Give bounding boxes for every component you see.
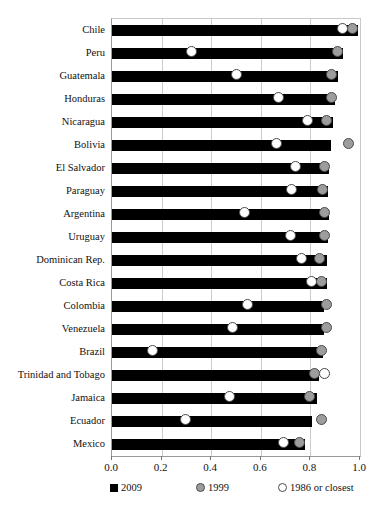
x-axis-tick-label: 0.0 xyxy=(91,461,131,473)
x-axis-tick-label: 0.2 xyxy=(141,461,181,473)
marker-1999 xyxy=(321,115,332,126)
bar-2009 xyxy=(112,393,317,404)
marker-1999 xyxy=(343,138,354,149)
category-label: Jamaica xyxy=(0,392,105,403)
bar-2009 xyxy=(112,347,323,358)
bar-2009 xyxy=(112,117,333,128)
legend-label: 1986 or closest xyxy=(290,482,354,493)
bar-2009 xyxy=(112,140,331,151)
category-label: Costa Rica xyxy=(0,277,105,288)
marker-1999 xyxy=(294,437,305,448)
bar-2009 xyxy=(112,278,327,289)
marker-1986 xyxy=(285,230,296,241)
bar-2009 xyxy=(112,301,324,312)
chart-row xyxy=(112,180,360,203)
marker-1999 xyxy=(319,230,330,241)
x-axis-tick xyxy=(111,456,112,460)
chart-row xyxy=(112,19,360,42)
marker-1986 xyxy=(319,368,330,379)
marker-1999 xyxy=(319,161,330,172)
marker-1999 xyxy=(326,92,337,103)
legend-label: 2009 xyxy=(121,482,142,493)
legend-item: 2009 xyxy=(110,482,142,493)
chart-row xyxy=(112,341,360,364)
marker-1986 xyxy=(180,414,191,425)
category-label: Guatemala xyxy=(0,70,105,81)
x-axis-tick xyxy=(210,456,211,460)
marker-1986 xyxy=(273,92,284,103)
x-axis-tick xyxy=(309,456,310,460)
plot-area xyxy=(111,18,361,457)
marker-1986 xyxy=(186,46,197,57)
chart-row xyxy=(112,433,360,456)
marker-1999 xyxy=(309,368,320,379)
bar-2009 xyxy=(112,71,338,82)
chart-row xyxy=(112,226,360,249)
legend-label: 1999 xyxy=(208,482,229,493)
marker-1986 xyxy=(231,69,242,80)
marker-1999 xyxy=(316,345,327,356)
marker-1999 xyxy=(321,322,332,333)
x-axis-tick-label: 0.8 xyxy=(289,461,329,473)
bar-2009 xyxy=(112,416,312,427)
chart-row xyxy=(112,42,360,65)
bar-2009 xyxy=(112,324,324,335)
black-square-icon xyxy=(110,484,118,492)
chart-row xyxy=(112,157,360,180)
bar-2009 xyxy=(112,255,327,266)
marker-1999 xyxy=(304,391,315,402)
chart-row xyxy=(112,111,360,134)
category-label: El Salvador xyxy=(0,162,105,173)
marker-1999 xyxy=(347,23,358,34)
category-label: Dominican Rep. xyxy=(0,254,105,265)
chart-row xyxy=(112,318,360,341)
data-rows xyxy=(112,19,360,456)
chart-row xyxy=(112,410,360,433)
chart-row xyxy=(112,65,360,88)
category-axis-labels: ChilePeruGuatemalaHondurasNicaraguaBoliv… xyxy=(0,18,105,455)
category-label: Venezuela xyxy=(0,323,105,334)
marker-1999 xyxy=(321,299,332,310)
category-label: Trinidad and Tobago xyxy=(0,369,105,380)
chart-row xyxy=(112,295,360,318)
category-label: Ecuador xyxy=(0,415,105,426)
gray-circle-icon xyxy=(196,483,205,492)
marker-1986 xyxy=(242,299,253,310)
category-label: Argentina xyxy=(0,208,105,219)
bar-2009 xyxy=(112,94,335,105)
category-label: Uruguay xyxy=(0,231,105,242)
x-axis-tick xyxy=(359,456,360,460)
bar-2009 xyxy=(112,25,358,36)
chart-row xyxy=(112,88,360,111)
category-label: Honduras xyxy=(0,93,105,104)
x-axis-tick-label: 0.4 xyxy=(190,461,230,473)
category-label: Peru xyxy=(0,47,105,58)
marker-1999 xyxy=(319,207,330,218)
chart-row xyxy=(112,134,360,157)
marker-1986 xyxy=(290,161,301,172)
legend-item: 1999 xyxy=(196,482,229,493)
open-circle-icon xyxy=(278,483,287,492)
marker-1986 xyxy=(227,322,238,333)
x-axis-tick-label: 0.6 xyxy=(240,461,280,473)
chart-row xyxy=(112,272,360,295)
marker-1986 xyxy=(278,437,289,448)
bar-2009 xyxy=(112,370,319,381)
marker-1999 xyxy=(316,276,327,287)
category-label: Nicaragua xyxy=(0,116,105,127)
bar-2009 xyxy=(112,439,305,450)
chart-row xyxy=(112,203,360,226)
chart-row xyxy=(112,364,360,387)
chart-legend: 200919991986 or closest xyxy=(0,482,380,502)
marker-1999 xyxy=(316,414,327,425)
category-label: Brazil xyxy=(0,346,105,357)
bar-2009 xyxy=(112,48,343,59)
horizontal-bar-chart: ChilePeruGuatemalaHondurasNicaraguaBoliv… xyxy=(0,0,380,510)
legend-item: 1986 or closest xyxy=(278,482,354,493)
category-label: Paraguay xyxy=(0,185,105,196)
marker-1999 xyxy=(326,69,337,80)
marker-1999 xyxy=(314,253,325,264)
x-axis-tick xyxy=(260,456,261,460)
x-axis-tick-label: 1.0 xyxy=(339,461,379,473)
category-label: Chile xyxy=(0,24,105,35)
